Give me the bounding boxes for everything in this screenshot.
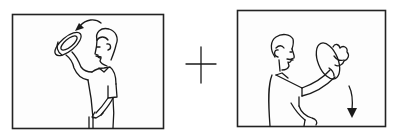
panel-2-frame [238,11,386,127]
gesture-diagram: Man raising hat above head + Man holding… [0,0,399,135]
panel-1 [13,15,164,129]
plus-icon [186,47,216,83]
panel-2 [238,11,386,127]
